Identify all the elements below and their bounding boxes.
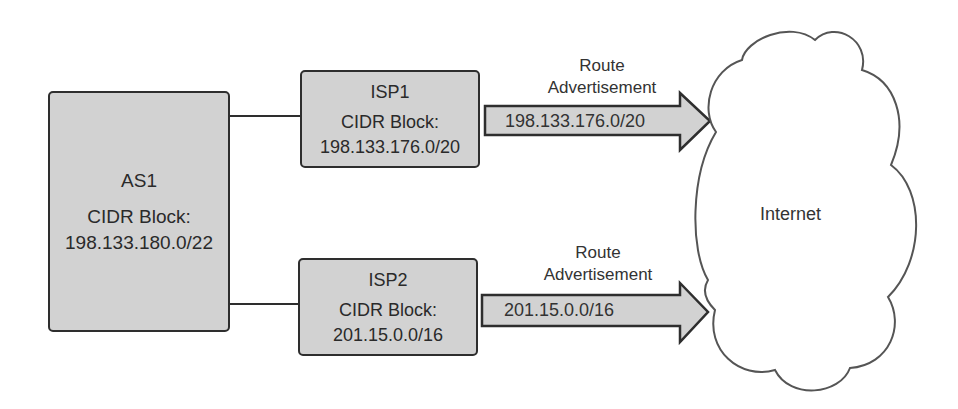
route-label-isp2-line2: Advertisement <box>508 265 688 285</box>
route-label-isp1-line1: Route <box>512 56 692 76</box>
as1-cidr: 198.133.180.0/22 <box>50 232 228 254</box>
as1-box: AS1 CIDR Block: 198.133.180.0/22 <box>48 91 230 332</box>
isp1-box: ISP1 CIDR Block: 198.133.176.0/20 <box>300 70 480 168</box>
isp1-cidr-label: CIDR Block: <box>302 112 478 133</box>
as1-name: AS1 <box>50 170 228 192</box>
isp2-name: ISP2 <box>300 270 476 291</box>
isp2-cidr: 201.15.0.0/16 <box>300 325 476 346</box>
route-label-isp1-line2: Advertisement <box>512 78 692 98</box>
route-label-isp1: Route Advertisement <box>512 56 692 98</box>
route-label-isp2: Route Advertisement <box>508 243 688 285</box>
isp1-name: ISP1 <box>302 82 478 103</box>
as1-cidr-label: CIDR Block: <box>50 206 228 228</box>
route-label-isp2-line1: Route <box>508 243 688 263</box>
isp1-cidr: 198.133.176.0/20 <box>302 137 478 158</box>
isp2-box: ISP2 CIDR Block: 201.15.0.0/16 <box>298 258 478 356</box>
internet-label: Internet <box>760 204 821 225</box>
advertised-prefix-isp1: 198.133.176.0/20 <box>505 111 645 132</box>
advertised-prefix-isp2: 201.15.0.0/16 <box>504 300 614 321</box>
isp2-cidr-label: CIDR Block: <box>300 300 476 321</box>
